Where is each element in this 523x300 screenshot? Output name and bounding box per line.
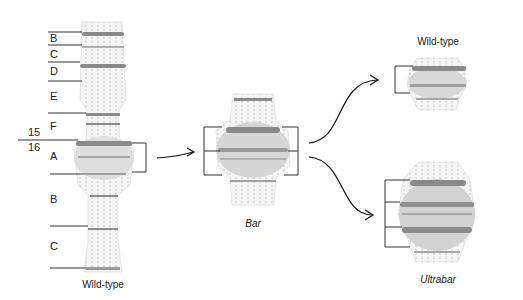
region-label-d: D bbox=[50, 65, 58, 77]
bar-chromosome bbox=[216, 94, 290, 205]
caption-bar: Bar bbox=[228, 218, 278, 229]
region-label-e: E bbox=[50, 90, 57, 102]
ultrabar-result bbox=[385, 162, 475, 262]
wild-type-chromosome bbox=[74, 22, 134, 272]
wild-type-result bbox=[395, 58, 467, 110]
arrow-to-wild-type bbox=[309, 80, 377, 143]
caption-wild-type-chromosome: Wild-type bbox=[70, 279, 136, 290]
region-label-a: A bbox=[50, 150, 57, 162]
region-label-b-upper: B bbox=[50, 32, 57, 44]
region-label-c-upper: C bbox=[50, 48, 58, 60]
section-label-15: 15 bbox=[28, 126, 40, 138]
section-label-16: 16 bbox=[28, 141, 40, 153]
caption-ultrabar: Ultrabar bbox=[405, 274, 471, 285]
arrow-to-ultrabar bbox=[309, 157, 372, 215]
region-label-c-lower: C bbox=[50, 240, 58, 252]
region-label-b-lower: B bbox=[50, 193, 57, 205]
region-label-f: F bbox=[50, 120, 57, 132]
caption-wild-type-result: Wild-type bbox=[405, 36, 471, 47]
